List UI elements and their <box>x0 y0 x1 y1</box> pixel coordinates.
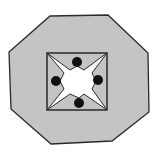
dot-bottom <box>74 98 84 108</box>
dot-left <box>51 76 61 86</box>
dot-right <box>93 75 103 85</box>
diagram-canvas <box>0 0 161 154</box>
dot-top <box>72 57 82 67</box>
